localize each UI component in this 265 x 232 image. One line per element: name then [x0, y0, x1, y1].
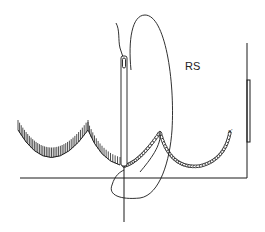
working-thread	[111, 15, 172, 198]
fabric-edge-bracket	[247, 80, 250, 142]
thread-loop	[111, 15, 172, 198]
right-side-label: RS	[185, 60, 200, 72]
embroidery-stitch-diagram: RS a'	[0, 0, 265, 232]
mark-label: a'	[228, 128, 232, 134]
needle	[121, 56, 127, 222]
needle-eye	[123, 58, 126, 68]
chain-stitch-scallops	[122, 131, 232, 168]
blanket-stitch-scallops	[18, 120, 120, 165]
needle-shaft	[121, 56, 127, 166]
